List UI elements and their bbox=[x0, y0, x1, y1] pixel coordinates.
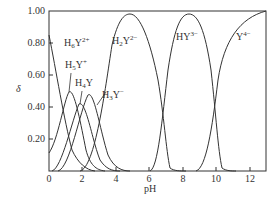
curve-h6y bbox=[49, 35, 95, 171]
leader-h5y bbox=[69, 73, 71, 92]
x-tick-label: 2 bbox=[80, 173, 85, 184]
label-h2y: H2Y2− bbox=[112, 34, 137, 48]
curves bbox=[49, 11, 266, 171]
y-axis-label: δ bbox=[16, 83, 21, 94]
x-tick-label: 0 bbox=[47, 173, 52, 184]
y-tick-label: 0.20 bbox=[28, 133, 46, 144]
label-h4y: H4Y bbox=[75, 77, 93, 90]
y-tick-label: 1.00 bbox=[28, 5, 46, 16]
y-axis bbox=[49, 43, 53, 139]
x-tick-label: 10 bbox=[211, 173, 221, 184]
y-tick-label: 0.60 bbox=[28, 69, 46, 80]
label-h3y: H3Y− bbox=[102, 88, 124, 102]
x-tick-label: 12 bbox=[245, 173, 255, 184]
x-axis-label: pH bbox=[144, 183, 156, 194]
curve-h3y bbox=[58, 95, 130, 171]
leader-h4y bbox=[80, 91, 82, 104]
x-tick-label: 4 bbox=[114, 173, 119, 184]
label-y: Y4− bbox=[236, 30, 251, 42]
curve-y bbox=[196, 11, 266, 171]
y-tick-label: 0.40 bbox=[28, 101, 46, 112]
x-tick-label: 8 bbox=[181, 173, 186, 184]
label-hy: HY3− bbox=[176, 30, 198, 42]
label-h5y: H5Y+ bbox=[65, 58, 87, 72]
label-h6y: H6Y2+ bbox=[64, 36, 89, 50]
species-distribution-chart: 0.20 0.40 0.60 0.80 1.00 δ 0 2 4 6 8 10 … bbox=[0, 0, 275, 198]
y-tick-label: 0.80 bbox=[28, 37, 46, 48]
